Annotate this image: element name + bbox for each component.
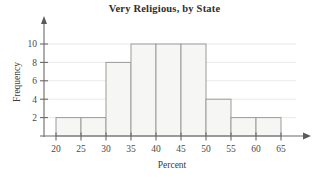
x-tick-label: 30 (101, 144, 111, 154)
x-tick-label: 25 (76, 144, 86, 154)
plot-area: 246810 20253035404550556065 Frequency Pe… (0, 0, 329, 180)
y-axis-title: Frequency (12, 62, 22, 102)
x-axis-title: Percent (158, 160, 187, 170)
y-tick-label: 6 (32, 76, 37, 86)
y-tick-label: 8 (32, 58, 37, 68)
y-tick-label: 2 (32, 113, 37, 123)
histogram-bar (81, 118, 106, 136)
x-tick-label: 35 (126, 144, 136, 154)
x-tick-label: 65 (276, 144, 286, 154)
x-tick-label: 60 (251, 144, 261, 154)
histogram-bar (56, 118, 81, 136)
histogram-bar (206, 99, 231, 136)
x-tick-label: 55 (226, 144, 236, 154)
x-tick-label: 50 (201, 144, 211, 154)
histogram-figure: Very Religious, by State 246810 20253035… (0, 0, 329, 180)
histogram-bar (156, 44, 181, 136)
y-tick-label: 4 (32, 95, 37, 105)
bars-group (56, 44, 281, 136)
y-axis-arrow-icon (41, 16, 47, 24)
x-axis-arrow-icon (303, 133, 311, 140)
x-tick-label: 40 (151, 144, 161, 154)
histogram-bar (256, 118, 281, 136)
x-tick-label: 20 (51, 144, 61, 154)
y-axis-ticks: 246810 (28, 39, 49, 123)
y-tick-label: 10 (28, 39, 38, 49)
histogram-bar (106, 62, 131, 136)
histogram-bar (181, 44, 206, 136)
histogram-bar (131, 44, 156, 136)
histogram-bar (231, 118, 256, 136)
x-tick-label: 45 (176, 144, 186, 154)
